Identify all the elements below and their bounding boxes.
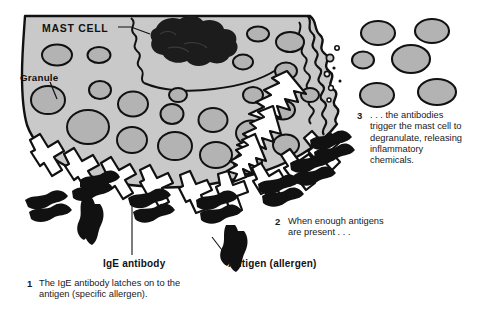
- step-1-number: 1: [27, 278, 32, 289]
- label-granule: Granule: [20, 72, 58, 83]
- step-1-text: The IgE antibody latches on to the antig…: [39, 278, 202, 301]
- step-2-number: 2: [275, 216, 280, 227]
- label-mast-cell: MAST CELL: [42, 22, 108, 34]
- step-3-text: . . . the antibodies trigger the mast ce…: [370, 110, 467, 166]
- label-ige-antibody: IgE antibody: [103, 258, 165, 269]
- step-2-text: When enough antigens are present . . .: [288, 216, 395, 239]
- caption-step-2: 2 When enough antigens are present . . .: [275, 216, 395, 239]
- figure-canvas: MAST CELL Granule IgE antibody Antigen (…: [0, 0, 481, 323]
- caption-step-1: 1 The IgE antibody latches on to the ant…: [27, 278, 202, 301]
- caption-step-3: 3 . . . the antibodies trigger the mast …: [357, 110, 467, 166]
- label-antigen: Antigen (allergen): [228, 258, 317, 269]
- step-3-number: 3: [357, 110, 362, 121]
- granule-group-released: [352, 19, 456, 107]
